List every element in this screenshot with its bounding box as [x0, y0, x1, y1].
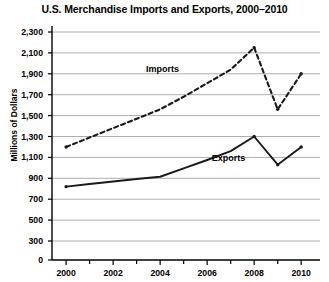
data-point-marker	[276, 163, 279, 166]
series-paths	[64, 46, 302, 188]
series-line-exports	[66, 137, 301, 187]
series-line-imports	[66, 48, 301, 147]
series-label-exports: Exports	[212, 153, 246, 163]
chart-container: U.S. Merchandise Imports and Exports, 20…	[0, 0, 329, 282]
data-point-marker	[299, 145, 302, 148]
data-point-marker	[64, 145, 67, 148]
plot-area	[0, 0, 329, 282]
data-point-marker	[252, 135, 255, 138]
axis-lines	[52, 26, 320, 260]
grid-lines	[52, 32, 320, 241]
data-point-marker	[276, 108, 279, 111]
data-point-marker	[252, 46, 255, 49]
series-label-imports: Imports	[146, 64, 179, 74]
data-point-marker	[299, 72, 302, 75]
data-point-marker	[64, 185, 67, 188]
